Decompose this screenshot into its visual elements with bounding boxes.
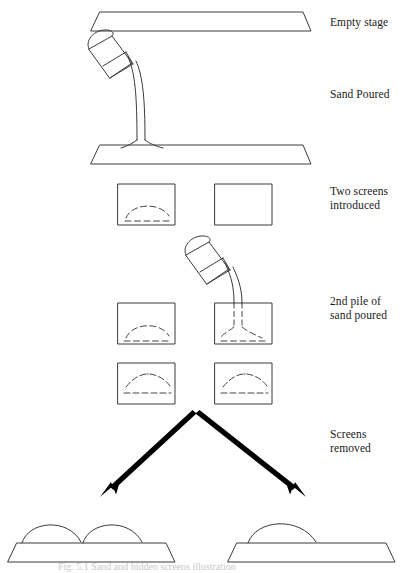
hidden-pile-row3-right bbox=[221, 374, 268, 393]
screen-row2-right bbox=[215, 303, 272, 344]
hidden-pile-row3-left bbox=[124, 374, 171, 393]
pouring-container-top bbox=[88, 30, 133, 78]
screen-row1-right bbox=[215, 184, 272, 225]
label-empty-stage: Empty stage bbox=[330, 16, 388, 30]
outcome-right-pile bbox=[248, 524, 316, 543]
sand-stream-top bbox=[128, 57, 145, 140]
label-two-screens-introduced: Two screens introduced bbox=[330, 185, 388, 212]
outcome-left-platform bbox=[8, 543, 175, 562]
hidden-pile-row2-right bbox=[221, 327, 268, 341]
hidden-stream-row2-right bbox=[234, 303, 242, 327]
outcome-right-platform bbox=[228, 543, 395, 562]
screen-row3-left bbox=[118, 363, 175, 404]
screen-row3-right bbox=[215, 363, 272, 404]
hidden-pile-row1-left bbox=[125, 206, 170, 221]
outcome-left-pile-1 bbox=[22, 525, 81, 543]
label-second-pile-of-sand-poured: 2nd pile of sand poured bbox=[330, 295, 387, 322]
sand-stream-bottom bbox=[225, 263, 242, 303]
hidden-pile-row2-left bbox=[124, 326, 171, 341]
label-screens-removed: Screens removed bbox=[330, 428, 371, 455]
figure-caption: Fig. 5.1 Sand and hidden screens illustr… bbox=[58, 561, 388, 573]
sand-poured-platform bbox=[91, 145, 311, 164]
empty-stage-platform bbox=[91, 12, 311, 31]
screen-row1-left bbox=[118, 184, 175, 225]
pouring-container-bottom bbox=[185, 236, 230, 284]
sand-pile-top bbox=[121, 140, 163, 148]
label-sand-poured: Sand Poured bbox=[330, 88, 390, 102]
arrow-right bbox=[196, 410, 307, 497]
outcome-left-pile-2 bbox=[83, 525, 142, 543]
arrow-left bbox=[100, 410, 197, 497]
